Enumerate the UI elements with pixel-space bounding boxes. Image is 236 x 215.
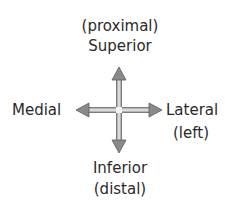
four-way-arrow-icon — [0, 0, 236, 215]
